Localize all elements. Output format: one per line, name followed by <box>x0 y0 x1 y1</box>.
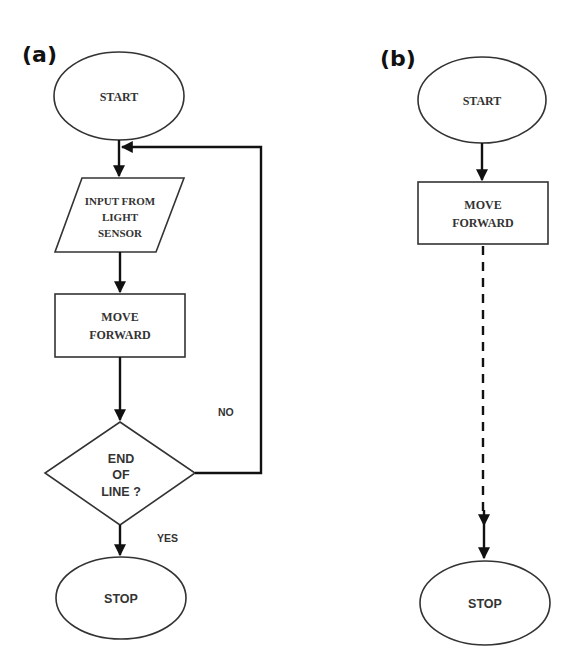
stop-terminal-a: STOP <box>56 557 186 639</box>
input-line-2: LIGHT <box>102 211 139 223</box>
move-line-2-b: FORWARD <box>452 216 514 230</box>
input-line-1: INPUT FROM <box>85 195 156 207</box>
move-forward-process-a: MOVE FORWARD <box>55 294 185 357</box>
stop-label-a: STOP <box>104 592 138 606</box>
stop-label-b: STOP <box>468 597 502 611</box>
yes-label: YES <box>157 532 178 544</box>
input-line-3: SENSOR <box>98 227 143 239</box>
panel-a: (a) START INPUT FROM LIGHT SENSOR MOVE F… <box>22 42 261 639</box>
start-label-b: START <box>463 94 502 108</box>
flowchart-canvas: (a) START INPUT FROM LIGHT SENSOR MOVE F… <box>0 0 580 669</box>
panel-b-label: (b) <box>380 46 416 71</box>
start-terminal-a: START <box>54 52 184 140</box>
input-light-sensor: INPUT FROM LIGHT SENSOR <box>55 178 184 252</box>
move-line-2-a: FORWARD <box>89 328 151 342</box>
move-forward-process-b: MOVE FORWARD <box>418 182 548 244</box>
start-label-a: START <box>100 90 139 104</box>
panel-b: (b) START MOVE FORWARD STOP <box>380 46 550 645</box>
panel-a-label: (a) <box>22 42 57 67</box>
no-label: NO <box>218 406 234 418</box>
stop-terminal-b: STOP <box>420 561 550 645</box>
move-line-1-b: MOVE <box>464 198 501 212</box>
decision-line-2: OF <box>112 468 130 482</box>
decision-line-1: END <box>108 452 134 466</box>
move-line-1-a: MOVE <box>101 310 138 324</box>
end-of-line-decision: END OF LINE ? <box>45 422 195 525</box>
start-terminal-b: START <box>418 57 546 143</box>
decision-line-3: LINE ? <box>101 485 141 499</box>
